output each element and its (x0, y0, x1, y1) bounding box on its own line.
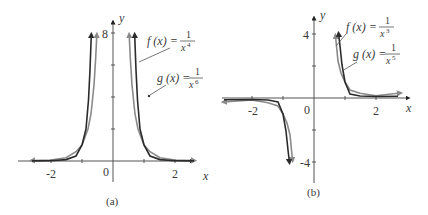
y-tick-label-neg4: -4 (300, 156, 310, 170)
f-label-b: f (x) = 1 x 3 (336, 15, 394, 46)
svg-text:x: x (385, 55, 391, 66)
x-tick-label-neg2: -2 (248, 104, 258, 118)
svg-text:x: x (180, 42, 186, 53)
x-tick-label-2: 2 (373, 104, 379, 118)
x-tick-label-2: 2 (172, 167, 178, 181)
x-tick-label-neg2: -2 (46, 167, 56, 181)
svg-text:g (x) =: g (x) = (353, 47, 386, 61)
g-label-b: g (x) = 1 x 5 (342, 42, 400, 71)
y-tick-label-8: 8 (102, 27, 108, 41)
svg-text:f (x) =: f (x) = (147, 34, 178, 48)
svg-text:1: 1 (391, 42, 396, 53)
panel-a: -2 0 2 8 x y f (x) = 1 x 4 g (x) = 1 x 6… (18, 11, 209, 208)
svg-text:1: 1 (195, 66, 200, 77)
svg-text:4: 4 (187, 41, 191, 49)
svg-text:1: 1 (186, 29, 191, 40)
caption-b: (b) (307, 186, 320, 199)
g-label-a: g (x) = 1 x 6 (148, 66, 203, 97)
svg-text:3: 3 (386, 27, 390, 35)
svg-text:g (x) =: g (x) = (157, 71, 190, 85)
x-axis-label: x (202, 169, 209, 183)
x-axis-label: x (405, 101, 412, 115)
figure: -2 0 2 8 x y f (x) = 1 x 4 g (x) = 1 x 6… (0, 0, 428, 215)
svg-text:x: x (188, 79, 194, 90)
f-label-a: f (x) = 1 x 4 (139, 29, 195, 62)
panel-b: -2 0 2 4 -4 x y f (x) = 1 x 3 g (x) = 1 … (222, 8, 412, 199)
y-axis-label: y (118, 11, 125, 25)
x-tick-label-0: 0 (103, 165, 109, 179)
y-axis-label: y (319, 8, 326, 22)
x-tick-label-0: 0 (304, 103, 310, 117)
svg-text:5: 5 (392, 54, 396, 62)
svg-text:x: x (379, 28, 385, 39)
svg-text:6: 6 (195, 78, 199, 86)
caption-a: (a) (106, 195, 119, 208)
y-tick-label-4: 4 (303, 28, 309, 42)
svg-text:1: 1 (385, 15, 390, 26)
svg-text:f (x) =: f (x) = (346, 20, 377, 34)
